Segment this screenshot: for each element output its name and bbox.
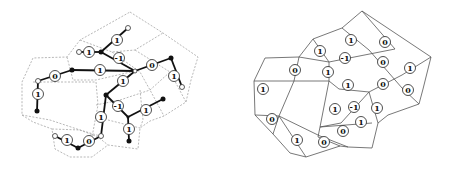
filled-node: [104, 93, 109, 98]
svg-text:0: 0: [340, 126, 346, 136]
svg-text:1: 1: [98, 112, 104, 122]
weight-label: 1: [372, 103, 383, 114]
svg-text:0: 0: [380, 57, 386, 67]
svg-text:1: 1: [114, 35, 120, 45]
svg-text:1: 1: [171, 71, 177, 81]
weight-label: 1: [330, 104, 341, 115]
weight-label: 1: [169, 71, 180, 82]
svg-text:1: 1: [332, 104, 338, 114]
open-node: [36, 79, 41, 84]
svg-text:1: 1: [64, 135, 70, 145]
filled-node: [127, 139, 132, 144]
weight-label: 0: [338, 126, 349, 137]
weight-label: 1: [33, 89, 44, 100]
svg-text:1: 1: [374, 103, 380, 113]
weight-label: 1: [95, 65, 106, 76]
open-node: [126, 26, 131, 31]
weight-label: 1: [62, 135, 73, 146]
svg-text:1: 1: [126, 124, 132, 134]
right-panel: 1 0 1 -1 0 0 1 1 1 0 1 0 1 -1 1 1 0 0 1 …: [254, 11, 431, 157]
svg-text:-1: -1: [350, 102, 359, 112]
left-labels: 1 1 -1 1 0 0 1 1 1 -1 1 1 1 1 0: [33, 35, 180, 147]
weight-label: -1: [113, 101, 124, 112]
weight-label: -1: [340, 53, 351, 64]
svg-text:0: 0: [86, 136, 92, 146]
weight-label: 0: [378, 57, 389, 68]
dashed-graph: [22, 12, 198, 157]
weight-label: 0: [50, 71, 61, 82]
svg-text:1: 1: [317, 46, 323, 56]
right-labels: 1 0 1 -1 0 0 1 1 1 0 1 0 1 -1 1 1 0 0 1 …: [258, 35, 416, 148]
weight-label: 1: [124, 124, 135, 135]
filled-node: [99, 50, 104, 55]
filled-node: [35, 109, 40, 114]
filled-node: [169, 56, 174, 61]
svg-text:1: 1: [35, 89, 41, 99]
svg-text:0: 0: [292, 65, 298, 75]
weight-label: 1: [292, 135, 303, 146]
weight-label: -1: [114, 53, 125, 64]
weight-label: 1: [141, 105, 152, 116]
svg-text:-1: -1: [115, 53, 124, 63]
svg-text:1: 1: [345, 80, 351, 90]
weight-label: 1: [84, 47, 95, 58]
open-node: [53, 134, 58, 139]
svg-text:1: 1: [143, 105, 149, 115]
filled-node: [127, 116, 130, 119]
svg-text:1: 1: [97, 65, 103, 75]
svg-text:-1: -1: [114, 101, 123, 111]
svg-text:0: 0: [321, 137, 327, 147]
open-node: [77, 50, 82, 55]
svg-text:0: 0: [52, 71, 58, 81]
open-node: [180, 85, 185, 90]
filled-node: [70, 68, 75, 73]
diagram-canvas: 1 1 -1 1 0 0 1 1 1 -1 1 1 1 1 0: [0, 0, 449, 169]
weight-label: 1: [323, 67, 334, 78]
weight-label: 1: [346, 35, 357, 46]
weight-label: 0: [380, 37, 391, 48]
open-node: [99, 134, 104, 139]
svg-text:1: 1: [86, 47, 92, 57]
weight-label: 1: [118, 76, 129, 87]
weight-label: 0: [84, 136, 95, 147]
weight-label: 0: [403, 85, 414, 96]
filled-node: [161, 97, 166, 102]
svg-text:-1: -1: [341, 53, 350, 63]
weight-label: 0: [319, 137, 330, 148]
weight-label: 1: [258, 84, 269, 95]
weight-label: 1: [405, 63, 416, 74]
weight-label: 1: [343, 80, 354, 91]
weight-label: 1: [356, 117, 367, 128]
weight-label: 1: [96, 112, 107, 123]
svg-text:0: 0: [149, 60, 155, 70]
weight-label: 0: [267, 114, 278, 125]
weight-label: 0: [147, 60, 158, 71]
svg-text:1: 1: [294, 135, 300, 145]
svg-text:0: 0: [405, 85, 411, 95]
left-panel: 1 1 -1 1 0 0 1 1 1 -1 1 1 1 1 0: [22, 12, 198, 157]
svg-text:0: 0: [269, 114, 275, 124]
svg-text:0: 0: [380, 79, 386, 89]
svg-text:1: 1: [325, 67, 331, 77]
tree-edges: [37, 28, 182, 148]
weight-label: -1: [349, 102, 360, 113]
svg-text:1: 1: [120, 76, 126, 86]
open-node: [133, 69, 137, 73]
svg-text:1: 1: [260, 84, 266, 94]
weight-label: 1: [315, 46, 326, 57]
svg-text:1: 1: [358, 117, 364, 127]
svg-text:0: 0: [382, 37, 388, 47]
weight-label: 1: [112, 35, 123, 46]
weight-label: 0: [378, 79, 389, 90]
svg-text:1: 1: [348, 35, 354, 45]
weight-label: 0: [290, 65, 301, 76]
svg-text:1: 1: [407, 63, 413, 73]
filled-node: [76, 146, 81, 151]
